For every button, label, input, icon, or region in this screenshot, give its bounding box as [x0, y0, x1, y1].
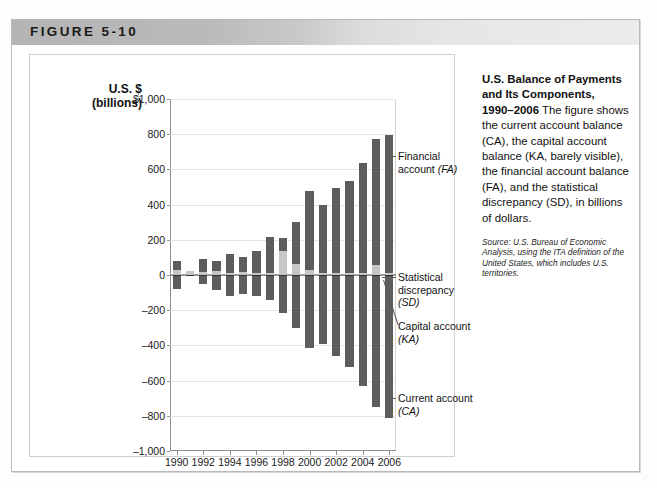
bar-column: [345, 99, 353, 451]
bar-segment-financial-account: [292, 222, 300, 264]
plot-area: $1,0008006004002000–200–400–600–800–1,00…: [170, 99, 396, 451]
leader-line-fa: [385, 156, 396, 157]
bar-segment-current-account: [199, 276, 207, 283]
y-axis-tick-mark: [167, 310, 170, 311]
bar-segment-financial-account: [345, 181, 353, 273]
chart-panel: U.S. $ (billions) $1,0008006004002000–20…: [29, 54, 455, 457]
x-axis-tick-mark: [336, 451, 337, 455]
x-axis-tick-mark: [230, 451, 231, 455]
bar-segment-financial-account: [226, 254, 234, 273]
x-axis-tick-label: 1992: [192, 456, 215, 468]
caption-description: The figure shows the current account bal…: [482, 104, 629, 224]
annotation-sd-line2: discrepancy: [398, 284, 454, 296]
bar-segment-financial-account: [239, 257, 247, 272]
bar-segment-current-account: [359, 276, 367, 385]
caption-body: U.S. Balance of Payments and Its Compone…: [482, 72, 632, 226]
x-axis-tick-mark: [283, 451, 284, 455]
caption-title-line1: U.S. Balance of Payments: [482, 73, 622, 85]
y-axis-tick-label: $1,000: [133, 93, 165, 105]
bar-segment-current-account: [292, 276, 300, 327]
bar-segment-financial-account: [332, 188, 340, 273]
bar-column: [372, 99, 380, 451]
annotation-statistical-discrepancy: Statistical discrepancy (SD): [398, 271, 478, 309]
y-axis-tick-mark: [167, 345, 170, 346]
y-axis-title: U.S. $ (billions): [46, 82, 142, 110]
x-axis-tick-label: 1996: [245, 456, 268, 468]
bar-segment-current-account: [345, 276, 353, 366]
annotation-ca-line1: Current account: [398, 392, 473, 404]
bar-segment-financial-account: [279, 238, 287, 251]
bar-column: [292, 99, 300, 451]
bar-segment-financial-account: [359, 163, 367, 273]
annotation-current-account: Current account (CA): [398, 392, 484, 417]
caption-column: U.S. Balance of Payments and Its Compone…: [482, 72, 632, 279]
bar-column: [186, 99, 194, 451]
x-axis-tick-mark: [256, 451, 257, 455]
bar-segment-statistical-discrepancy: [292, 264, 300, 275]
y-axis-tick-mark: [167, 381, 170, 382]
figure-page: FIGURE 5-10 U.S. $ (billions) $1,0008006…: [0, 0, 657, 488]
annotation-fa-line1: Financial: [398, 150, 440, 162]
bar-segment-financial-account: [252, 251, 260, 273]
bar-segment-financial-account: [319, 205, 327, 273]
annotation-ka-line1: Capital account: [398, 320, 470, 332]
bar-column: [279, 99, 287, 451]
y-axis-tick-label: 600: [147, 163, 165, 175]
y-axis-tick-label: 200: [147, 234, 165, 246]
figure-container: FIGURE 5-10 U.S. $ (billions) $1,0008006…: [11, 19, 640, 472]
y-axis-tick-label: –600: [142, 375, 165, 387]
bar-segment-current-account: [372, 276, 380, 407]
y-axis-tick-mark: [167, 275, 170, 276]
annotation-capital-account: Capital account (KA): [398, 320, 478, 345]
x-axis-tick-label: 1998: [271, 456, 294, 468]
y-axis-tick-mark: [167, 134, 170, 135]
bar-segment-current-account: [173, 276, 181, 289]
x-axis-tick-label: 2004: [351, 456, 374, 468]
bar-column: [266, 99, 274, 451]
bar-segment-current-account: [319, 276, 327, 343]
bar-segment-current-account: [305, 276, 313, 348]
y-axis-tick-label: –1,000: [133, 445, 165, 457]
y-axis-title-line2: (billions): [46, 96, 142, 110]
bar-column: [239, 99, 247, 451]
bar-segment-financial-account: [266, 237, 274, 272]
bar-segment-current-account: [212, 276, 220, 290]
x-axis-tick-mark: [389, 451, 390, 455]
caption-title-line3: 1990–2006: [482, 104, 539, 116]
bar-column: [332, 99, 340, 451]
bar-column: [305, 99, 313, 451]
bar-column: [173, 99, 181, 451]
bar-segment-financial-account: [305, 191, 313, 270]
bar-segment-financial-account: [372, 139, 380, 265]
leader-line-ca: [385, 398, 396, 399]
bar-segment-financial-account: [212, 261, 220, 272]
bar-segment-capital-account: [186, 275, 194, 276]
bar-segment-current-account: [332, 276, 340, 356]
y-axis-tick-mark: [167, 416, 170, 417]
annotation-fa-line2: account: [398, 163, 435, 175]
bar-segment-financial-account: [173, 261, 181, 270]
annotation-ca-abbr: (CA): [398, 405, 420, 417]
bar-column: [359, 99, 367, 451]
bar-segment-current-account: [266, 276, 274, 299]
y-axis-tick-mark: [167, 99, 170, 100]
y-axis-tick-label: –800: [142, 410, 165, 422]
y-axis-tick-mark: [167, 451, 170, 452]
x-axis-tick-mark: [363, 451, 364, 455]
y-axis-title-line1: U.S. $: [46, 82, 142, 96]
bar-column: [226, 99, 234, 451]
annotation-ka-abbr: (KA): [398, 333, 419, 345]
annotation-financial-account: Financial account (FA): [398, 150, 468, 175]
bar-segment-current-account: [252, 276, 260, 296]
leader-line-sd: [382, 277, 396, 278]
y-axis-tick-label: 0: [159, 269, 165, 281]
bar-segment-current-account: [239, 276, 247, 294]
y-axis-tick-label: –200: [142, 304, 165, 316]
bar-segment-financial-account: [199, 259, 207, 272]
bar-segment-statistical-discrepancy: [372, 265, 380, 275]
figure-banner: FIGURE 5-10: [12, 20, 639, 45]
bar-column: [212, 99, 220, 451]
x-axis-tick-label: 1994: [218, 456, 241, 468]
y-axis-tick-mark: [167, 205, 170, 206]
x-axis-tick-mark: [177, 451, 178, 455]
